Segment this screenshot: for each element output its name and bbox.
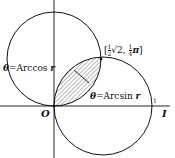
polar-region-diagram: θ=Arccos r θ=Arcsin r [12√2, 14π] O 1 I — [0, 0, 175, 158]
origin-label: O — [41, 109, 50, 119]
arccos-label: θ=Arccos r — [3, 64, 55, 73]
axis-end-label: I — [162, 109, 167, 119]
diagram-canvas — [0, 0, 175, 158]
intersection-label: [12√2, 14π] — [104, 44, 142, 57]
arcsin-label: θ=Arcsin r — [90, 92, 140, 101]
origin-point — [53, 105, 56, 108]
intersection-point — [100, 58, 103, 61]
unit-mark-label: 1 — [153, 98, 157, 104]
